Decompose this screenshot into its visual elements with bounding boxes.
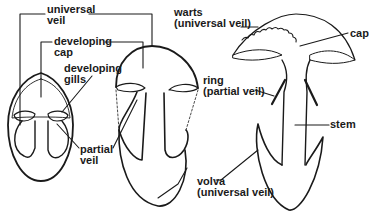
button-stage — [116, 46, 198, 206]
mature-ring-left — [272, 80, 285, 104]
label-volva-2: (universal veil) — [197, 187, 274, 198]
egg-gill-right — [48, 111, 68, 121]
label-ring-2: (partial veil) — [203, 86, 265, 97]
mature-stem-right — [305, 60, 310, 165]
button-stem-right — [164, 93, 188, 158]
label-universal-veil-2: veil — [47, 15, 65, 26]
button-cap — [116, 46, 198, 88]
label-developing-gills-2: gills — [64, 74, 86, 85]
label-partial-veil-2: veil — [80, 155, 98, 166]
button-gill-right — [169, 84, 198, 91]
mature-gill-left — [233, 50, 282, 60]
button-gill-left — [116, 83, 145, 91]
button-volva — [119, 130, 186, 206]
label-stem: stem — [330, 119, 356, 130]
button-partial-veil-right — [186, 90, 198, 130]
mature-stem-left — [282, 60, 287, 165]
egg-stem-right — [48, 121, 68, 158]
button-partial-veil-left — [116, 90, 119, 130]
egg-gill-left — [14, 111, 35, 121]
egg-stem-left — [15, 121, 35, 157]
label-cap: cap — [350, 28, 369, 39]
label-warts-2: (universal veil) — [174, 18, 251, 29]
mature-stage — [233, 14, 355, 210]
mature-gill-right — [310, 51, 355, 64]
mature-warts — [242, 28, 296, 43]
button-stem-left — [119, 92, 146, 160]
label-developing-cap-2: cap — [54, 47, 73, 58]
